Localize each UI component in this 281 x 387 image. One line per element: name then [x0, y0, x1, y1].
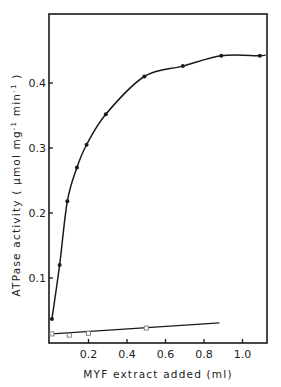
x-tick-label: 0.2	[80, 348, 98, 361]
data-point-filled	[75, 166, 79, 170]
data-point-filled	[104, 112, 108, 116]
x-tick-label: 0.6	[157, 348, 175, 361]
series-myf-curve	[52, 55, 266, 319]
data-point-filled	[65, 199, 69, 203]
data-point-filled	[85, 143, 89, 147]
y-tick-label: 0.4	[29, 77, 47, 90]
data-point-open-square	[87, 331, 91, 335]
x-tick-label: 0.8	[195, 348, 213, 361]
data-point-open-square	[144, 326, 148, 330]
y-tick-label: 0.3	[29, 142, 47, 155]
data-series	[50, 54, 266, 338]
y-tick-label: 0.2	[29, 207, 47, 220]
chart: 0.20.40.60.81.0 0.10.20.30.4 MYF extract…	[0, 0, 281, 387]
data-point-filled	[50, 317, 54, 321]
data-point-filled	[219, 54, 223, 58]
y-axis-label: ATPase activity ( μmol mg-1 min-1 )	[10, 74, 22, 297]
data-point-filled	[181, 64, 185, 68]
y-tick-label: 0.1	[29, 272, 47, 285]
data-point-open-square	[67, 333, 71, 337]
data-point-open-square	[50, 332, 54, 336]
x-axis-label: MYF extract added (ml)	[83, 368, 232, 380]
x-tick-label: 0.4	[118, 348, 136, 361]
series-control-line	[52, 323, 219, 334]
data-point-filled	[258, 54, 262, 58]
data-point-filled	[142, 75, 146, 79]
data-point-filled	[58, 263, 62, 267]
x-tick-label: 1.0	[234, 348, 252, 361]
plot-frame	[49, 14, 267, 343]
